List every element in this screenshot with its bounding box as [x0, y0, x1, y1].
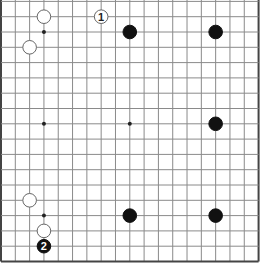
white-stone[interactable] [37, 224, 51, 238]
white-stone[interactable] [23, 41, 37, 55]
stone-circle [37, 10, 51, 24]
black-stone[interactable] [123, 209, 137, 223]
stone-circle [123, 209, 137, 223]
move-number-label: 1 [98, 11, 104, 23]
stone-circle [23, 41, 37, 55]
star-point [42, 122, 46, 126]
white-stone[interactable]: 1 [94, 10, 108, 24]
stone-circle [23, 194, 37, 208]
stone-circle [209, 25, 223, 39]
white-stone[interactable] [37, 10, 51, 24]
black-stone[interactable] [209, 209, 223, 223]
star-point [42, 214, 46, 218]
stone-circle [37, 224, 51, 238]
black-stone[interactable] [209, 25, 223, 39]
black-stone[interactable] [123, 25, 137, 39]
stone-circle [209, 117, 223, 131]
star-point [42, 30, 46, 34]
stone-circle [209, 209, 223, 223]
stone-circle [123, 25, 137, 39]
black-stone[interactable]: 2 [37, 239, 51, 253]
move-number-label: 2 [41, 240, 47, 252]
star-point [128, 122, 132, 126]
white-stone[interactable] [23, 194, 37, 208]
black-stone[interactable] [209, 117, 223, 131]
go-board[interactable]: 12 [0, 0, 266, 266]
